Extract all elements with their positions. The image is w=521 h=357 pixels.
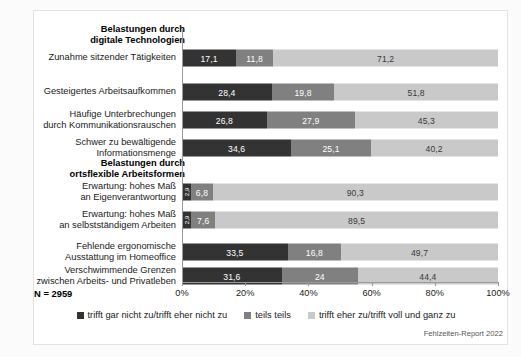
bar-segment: 16,8	[288, 244, 341, 261]
value-axis-line	[182, 29, 183, 282]
chart-row: Gesteigertes Arbeitsaufkommen28,419,851,…	[34, 79, 498, 105]
bar-segment: 89,5	[215, 212, 498, 229]
bar-segment-value: 25,1	[322, 143, 339, 153]
chart-row: Erwartung: hohes Maß an Eigenverantwortu…	[34, 179, 498, 205]
bar-segment: 27,9	[267, 112, 355, 129]
bar-segment-value: 7,6	[197, 215, 209, 225]
stacked-bar: 26,827,945,3	[182, 112, 498, 129]
row-category-label: Zunahme sitzender Tätigkeiten	[0, 52, 176, 63]
axis-tick-label: 0%	[157, 288, 207, 298]
axis-tick-mark	[182, 282, 183, 286]
bar-segment-value: 44,4	[419, 271, 436, 281]
legend-label: trifft eher zu/trifft voll und ganz zu	[319, 310, 456, 320]
stacked-bar: 17,111,871,2	[182, 50, 498, 67]
source-note: Fehlzeiten-Report 2022	[424, 329, 503, 338]
legend-item[interactable]: teils teils	[244, 310, 291, 320]
bar-segment-value: 34,6	[228, 143, 245, 153]
bar-segment: 34,6	[182, 140, 291, 157]
chart-row: Verschwimmende Grenzen zwischen Arbeits-…	[34, 263, 498, 289]
row-category-label: Erwartung: hohes Maß an selbstständigem …	[0, 209, 176, 231]
stacked-bar: 2,96,890,3	[182, 184, 498, 201]
bar-segment: 71,2	[273, 50, 498, 67]
bar-segment-value: 51,8	[408, 87, 425, 97]
bar-segment-value: 2,9	[183, 216, 190, 225]
legend-item[interactable]: trifft eher zu/trifft voll und ganz zu	[308, 310, 456, 320]
stacked-bar: 28,419,851,8	[182, 84, 498, 101]
axis-tick-label: 20%	[220, 288, 270, 298]
bar-segment: 33,5	[182, 244, 288, 261]
stacked-bar: 34,625,140,2	[182, 140, 498, 157]
axis-tick-label: 100%	[473, 288, 521, 298]
category-axis-line	[182, 282, 499, 283]
bar-segment-value: 16,8	[306, 247, 323, 257]
bar-segment: 2,9	[182, 184, 191, 201]
bar-segment: 28,4	[182, 84, 272, 101]
bar-segment: 49,7	[341, 244, 498, 261]
bar-segment: 51,8	[334, 84, 498, 101]
chart-row: Schwer zu bewältigende Informationsmenge…	[34, 135, 498, 161]
bar-segment-value: 11,8	[246, 53, 263, 63]
row-category-label: Fehlende ergonomische Ausstattung im Hom…	[0, 241, 176, 263]
row-category-label: Gesteigertes Arbeitsaufkommen	[0, 86, 176, 97]
group-header-ortsflexible: Belastungen durch ortsflexible Arbeitsfo…	[0, 158, 185, 180]
legend-swatch-icon	[308, 312, 315, 319]
bar-segment: 19,8	[272, 84, 335, 101]
bar-segment: 90,3	[213, 184, 498, 201]
legend-item[interactable]: trifft gar nicht zu/trifft eher nicht zu	[77, 310, 228, 320]
bar-segment-value: 40,2	[426, 143, 443, 153]
bar-segment-value: 31,6	[223, 271, 240, 281]
bar-segment-value: 2,9	[183, 188, 190, 197]
axis-tick-mark	[245, 282, 246, 286]
bar-segment: 7,6	[191, 212, 215, 229]
bar-segment-value: 26,8	[216, 115, 233, 125]
bar-segment-value: 19,8	[294, 87, 311, 97]
row-category-label: Häufige Unterbrechungen durch Kommunikat…	[0, 109, 176, 131]
chart-row: Häufige Unterbrechungen durch Kommunikat…	[34, 107, 498, 133]
bar-segment: 6,8	[191, 184, 212, 201]
sample-size-label: N = 2959	[34, 288, 72, 299]
bar-segment-value: 49,7	[411, 247, 428, 257]
bar-segment: 45,3	[355, 112, 498, 129]
bar-segment: 17,1	[182, 50, 236, 67]
axis-tick-label: 40%	[283, 288, 333, 298]
bar-segment-value: 24	[315, 271, 325, 281]
bar-segment-value: 90,3	[347, 187, 364, 197]
chart-legend: trifft gar nicht zu/trifft eher nicht zu…	[34, 310, 498, 320]
bar-segment-value: 6,8	[196, 187, 208, 197]
bar-segment-value: 45,3	[418, 115, 435, 125]
group-header-digital: Belastungen durch digitale Technologien	[0, 24, 185, 46]
chart-row: Fehlende ergonomische Ausstattung im Hom…	[34, 239, 498, 265]
axis-tick-label: 60%	[347, 288, 397, 298]
legend-swatch-icon	[244, 312, 251, 319]
bar-segment-value: 27,9	[302, 115, 319, 125]
bar-segment: 40,2	[371, 140, 498, 157]
row-category-label: Verschwimmende Grenzen zwischen Arbeits-…	[0, 265, 176, 287]
bar-segment-value: 28,4	[218, 87, 235, 97]
bar-segment-value: 17,1	[200, 53, 217, 63]
axis-tick-mark	[308, 282, 309, 286]
chart-row: Erwartung: hohes Maß an selbstständigem …	[34, 207, 498, 233]
legend-swatch-icon	[77, 312, 84, 319]
legend-label: trifft gar nicht zu/trifft eher nicht zu	[88, 310, 228, 320]
axis-tick-mark	[435, 282, 436, 286]
row-category-label: Erwartung: hohes Maß an Eigenverantwortu…	[0, 181, 176, 203]
axis-tick-mark	[498, 282, 499, 286]
bar-segment-value: 71,2	[377, 53, 394, 63]
stacked-bar: 2,97,689,5	[182, 212, 498, 229]
bar-segment-value: 89,5	[348, 215, 365, 225]
chart-row: Zunahme sitzender Tätigkeiten17,111,871,…	[34, 45, 498, 71]
axis-tick-mark	[372, 282, 373, 286]
bar-segment-value: 33,5	[226, 247, 243, 257]
bar-segment: 2,9	[182, 212, 191, 229]
chart-panel: Belastungen durch digitale Technologien …	[33, 10, 508, 345]
legend-label: teils teils	[255, 310, 291, 320]
row-category-label: Schwer zu bewältigende Informationsmenge	[0, 137, 176, 159]
bar-segment: 26,8	[182, 112, 267, 129]
axis-tick-label: 80%	[410, 288, 460, 298]
chart-page: Belastungen durch digitale Technologien …	[0, 0, 521, 357]
bar-segment: 25,1	[291, 140, 370, 157]
stacked-bar: 33,516,849,7	[182, 244, 498, 261]
bar-segment: 11,8	[236, 50, 273, 67]
